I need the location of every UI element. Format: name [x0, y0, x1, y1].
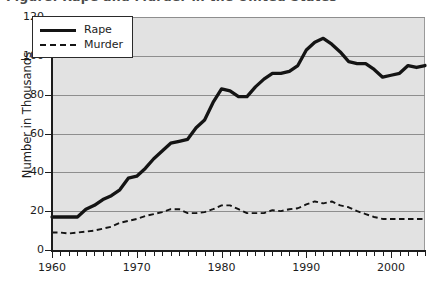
- x-tick-mark-1983: [247, 252, 248, 256]
- x-tick-mark-2001: [400, 252, 401, 256]
- y-tick-label-60: 60: [0, 128, 44, 139]
- x-tick-mark-1980: [222, 252, 223, 258]
- chart-legend: Rape Murder: [32, 16, 133, 58]
- x-tick-mark-1988: [289, 252, 290, 256]
- solid-line-swatch-icon: [40, 25, 76, 35]
- x-tick-mark-1961: [60, 252, 61, 256]
- x-tick-mark-1979: [213, 252, 214, 256]
- legend-entry-rape: Rape: [40, 22, 123, 37]
- x-tick-mark-2000: [391, 252, 392, 258]
- x-tick-mark-1972: [154, 252, 155, 256]
- x-tick-label-1980: 1980: [208, 261, 236, 274]
- x-tick-mark-1985: [264, 252, 265, 256]
- x-tick-mark-1992: [323, 252, 324, 256]
- x-tick-mark-1976: [188, 252, 189, 256]
- x-tick-mark-1977: [196, 252, 197, 256]
- x-tick-mark-1999: [383, 252, 384, 256]
- x-tick-mark-1965: [94, 252, 95, 256]
- x-tick-mark-2003: [417, 252, 418, 256]
- y-tick-label-40: 40: [0, 166, 44, 177]
- x-tick-mark-1960: [52, 252, 53, 258]
- x-tick-mark-1968: [120, 252, 121, 256]
- x-tick-mark-1995: [349, 252, 350, 256]
- x-tick-mark-1997: [366, 252, 367, 256]
- y-tick-label-80: 80: [0, 89, 44, 100]
- x-tick-mark-1998: [374, 252, 375, 256]
- x-tick-mark-1963: [77, 252, 78, 256]
- x-tick-mark-1964: [86, 252, 87, 256]
- x-tick-mark-1962: [69, 252, 70, 256]
- x-tick-mark-1967: [111, 252, 112, 256]
- x-tick-mark-2004: [425, 252, 426, 256]
- x-tick-mark-1975: [179, 252, 180, 256]
- x-tick-label-1990: 1990: [292, 261, 320, 274]
- x-tick-label-1960: 1960: [38, 261, 66, 274]
- legend-label-murder: Murder: [84, 39, 123, 50]
- figure-title-text: Figure: Rape and Murder in the United St…: [6, 0, 337, 4]
- x-tick-mark-1978: [205, 252, 206, 256]
- x-tick-mark-1982: [239, 252, 240, 256]
- x-tick-mark-2002: [408, 252, 409, 256]
- legend-entry-murder: Murder: [40, 37, 123, 52]
- x-tick-label-1970: 1970: [123, 261, 151, 274]
- y-tick-label-20: 20: [0, 205, 44, 216]
- x-tick-mark-1974: [171, 252, 172, 256]
- x-tick-mark-1973: [162, 252, 163, 256]
- x-axis-ticks: [0, 252, 440, 260]
- x-tick-mark-1996: [357, 252, 358, 256]
- x-tick-mark-1984: [255, 252, 256, 256]
- series-line-rape: [52, 38, 425, 217]
- x-tick-mark-1994: [340, 252, 341, 256]
- figure-title-cropped: Figure: Rape and Murder in the United St…: [0, 0, 440, 7]
- x-tick-mark-1987: [281, 252, 282, 256]
- x-tick-mark-1991: [315, 252, 316, 256]
- x-tick-mark-1971: [145, 252, 146, 256]
- x-tick-mark-1970: [137, 252, 138, 258]
- legend-label-rape: Rape: [84, 24, 112, 35]
- x-tick-mark-1966: [103, 252, 104, 256]
- chart-figure: Figure: Rape and Murder in the United St…: [0, 0, 440, 285]
- x-tick-mark-1989: [298, 252, 299, 256]
- series-line-murder: [52, 201, 425, 233]
- x-tick-mark-1990: [306, 252, 307, 258]
- x-axis-labels: 19601970198019902000: [0, 261, 440, 279]
- dashed-line-swatch-icon: [40, 40, 76, 50]
- x-tick-mark-1969: [128, 252, 129, 256]
- x-tick-label-2000: 2000: [377, 261, 405, 274]
- x-tick-mark-1993: [332, 252, 333, 256]
- x-tick-mark-1981: [230, 252, 231, 256]
- x-tick-mark-1986: [272, 252, 273, 256]
